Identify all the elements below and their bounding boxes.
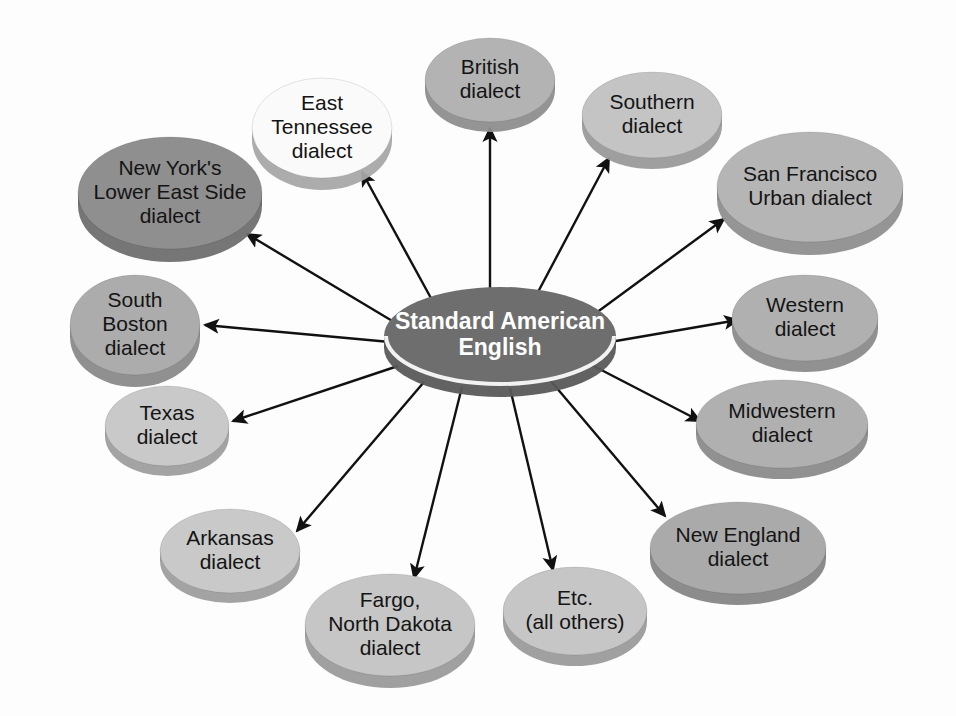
edge-east-tennessee (362, 172, 432, 300)
node-label-line: San Francisco (743, 162, 877, 185)
node-label-line: dialect (140, 203, 201, 226)
center-node-layer: Standard AmericanEnglish (384, 287, 616, 397)
edge-line (414, 387, 462, 578)
edge-line (510, 388, 553, 570)
node-label-line: East (301, 91, 343, 114)
edge-line (247, 234, 394, 322)
node-label-line: dialect (292, 138, 353, 161)
node-center-standard-american-english[interactable]: Standard AmericanEnglish (384, 287, 616, 397)
node-label-line: Standard American (395, 308, 605, 334)
node-label-line: North Dakota (328, 612, 452, 635)
edge-line (362, 172, 432, 300)
edge-texas (233, 366, 398, 421)
node-label-line: Tennessee (271, 115, 373, 138)
edge-western (610, 320, 738, 342)
edge-line (596, 219, 724, 313)
node-east-tennessee[interactable]: EastTennesseedialect (252, 78, 392, 190)
edge-arkansas (297, 382, 424, 531)
node-arkansas[interactable]: Arkansasdialect (160, 509, 300, 603)
node-label-line: British (461, 55, 519, 78)
node-label: Texasdialect (137, 401, 198, 448)
edge-line (205, 325, 390, 342)
node-new-england[interactable]: New Englanddialect (650, 502, 826, 605)
node-texas[interactable]: Texasdialect (105, 386, 229, 476)
edge-fargo-north-dakota (414, 387, 462, 578)
edge-new-england (550, 380, 665, 516)
edge-line (297, 382, 424, 531)
node-label: Southerndialect (609, 90, 694, 137)
node-label-line: dialect (622, 113, 683, 136)
node-southern[interactable]: Southerndialect (582, 72, 722, 169)
edge-line (233, 366, 398, 421)
edge-line (610, 320, 738, 342)
node-label-line: Urban dialect (748, 185, 872, 208)
node-label-line: dialect (360, 635, 421, 658)
node-label-line: Western (766, 293, 844, 316)
edge-line (550, 380, 665, 516)
node-label-line: English (458, 334, 541, 360)
node-label-line: Fargo, (360, 588, 421, 611)
edge-south-boston (205, 325, 390, 342)
node-label-line: (all others) (525, 609, 624, 632)
node-label: SouthBostondialect (102, 288, 167, 358)
node-etc-all-others[interactable]: Etc.(all others) (503, 567, 647, 666)
node-label-line: Texas (140, 401, 195, 424)
node-label: San FranciscoUrban dialect (743, 162, 877, 209)
node-label-line: Lower East Side (94, 180, 247, 203)
node-label-line: Etc. (557, 586, 593, 609)
node-label-line: dialect (200, 549, 261, 572)
edge-new-yorks-lower-east-side (247, 234, 394, 322)
node-western[interactable]: Westerndialect (732, 275, 878, 372)
node-label-line: South (108, 288, 163, 311)
node-label-line: New England (676, 523, 801, 546)
node-label-line: Boston (102, 312, 167, 335)
node-south-boston[interactable]: SouthBostondialect (70, 275, 200, 387)
node-fargo-north-dakota[interactable]: Fargo,North Dakotadialect (305, 574, 475, 688)
node-label-line: dialect (775, 316, 836, 339)
node-label-line: dialect (460, 78, 521, 101)
dialects-radial-diagram: BritishdialectEastTennesseedialectNew Yo… (0, 0, 956, 716)
node-label-line: dialect (137, 424, 198, 447)
diagram-canvas: BritishdialectEastTennesseedialectNew Yo… (0, 0, 956, 716)
node-label-line: dialect (105, 335, 166, 358)
edge-san-francisco-urban (596, 219, 724, 313)
node-new-yorks-lower-east-side[interactable]: New York'sLower East Sidedialect (78, 137, 262, 262)
node-label-line: New York's (118, 156, 221, 179)
node-label-line: dialect (752, 422, 813, 445)
node-label: Westerndialect (766, 293, 844, 340)
node-san-francisco-urban[interactable]: San FranciscoUrban dialect (717, 132, 903, 255)
node-label-line: Southern (609, 90, 694, 113)
edge-etc-all-others (510, 388, 553, 570)
node-label-line: Arkansas (186, 526, 274, 549)
edge-southern (538, 158, 609, 292)
node-label: Britishdialect (460, 55, 521, 102)
node-midwestern[interactable]: Midwesterndialect (696, 380, 868, 479)
node-british[interactable]: Britishdialect (425, 38, 555, 132)
node-label-line: dialect (708, 546, 769, 569)
edge-line (538, 158, 609, 292)
node-label-line: Midwestern (728, 399, 835, 422)
